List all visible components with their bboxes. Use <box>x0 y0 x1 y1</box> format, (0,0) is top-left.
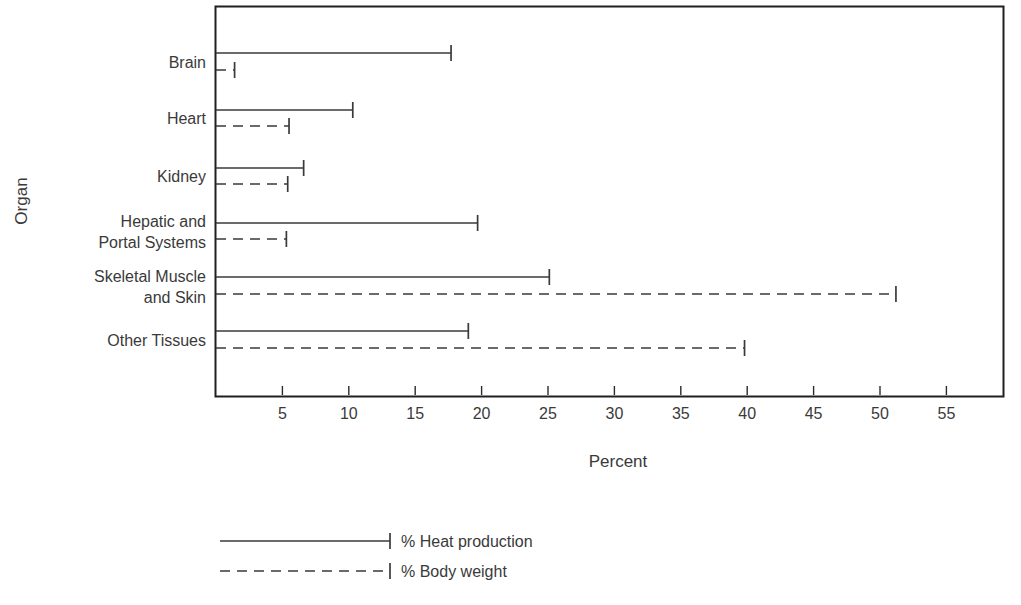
category-label: Other Tissues <box>107 332 206 349</box>
category-label: Skeletal Muscle <box>94 268 206 285</box>
category-label: Kidney <box>157 168 206 185</box>
x-tick-label: 30 <box>606 405 624 422</box>
x-tick-label: 55 <box>938 405 956 422</box>
x-tick-label: 15 <box>406 405 424 422</box>
category-label: Portal Systems <box>98 234 206 251</box>
category-label: Hepatic and <box>121 213 206 230</box>
legend-label: % Heat production <box>401 533 533 550</box>
y-axis-title: Organ <box>12 177 31 224</box>
x-tick-label: 10 <box>340 405 358 422</box>
x-tick-label: 5 <box>278 405 287 422</box>
category-label: Heart <box>167 110 207 127</box>
x-tick-label: 45 <box>805 405 823 422</box>
category-label: and Skin <box>144 289 206 306</box>
x-tick-label: 35 <box>672 405 690 422</box>
x-tick-label: 40 <box>738 405 756 422</box>
category-label: Brain <box>169 54 206 71</box>
legend-label: % Body weight <box>401 563 507 580</box>
chart-page: 510152025303540455055 BrainHeartKidneyHe… <box>0 0 1021 605</box>
x-axis-title: Percent <box>589 452 648 471</box>
x-tick-label: 50 <box>871 405 889 422</box>
x-tick-label: 25 <box>539 405 557 422</box>
horizontal-bar-chart: 510152025303540455055 BrainHeartKidneyHe… <box>0 0 1021 605</box>
x-tick-label: 20 <box>473 405 491 422</box>
